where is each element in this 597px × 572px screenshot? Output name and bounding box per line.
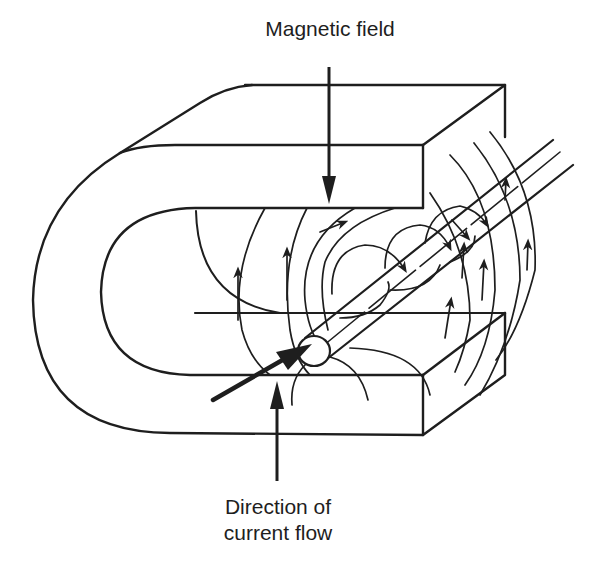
field-line-lower-2: [350, 348, 430, 395]
outer-arc-3-arrow: [482, 262, 484, 300]
magnetic-field-label: Magnetic field: [230, 16, 430, 42]
current-flow-label: Direction of current flow: [178, 494, 378, 546]
magnet-upper-arm-top-front: [120, 145, 423, 153]
current-flow-label-line1: Direction of: [178, 494, 378, 520]
field-line-lower-1: [330, 357, 368, 400]
conductor-loop-2-lower: [390, 265, 440, 290]
outer-arc-1-arrow: [445, 300, 451, 338]
wire-centerline: [318, 152, 560, 350]
lower-arm-end-face: [423, 313, 505, 435]
field-line-1: [239, 208, 270, 375]
magnetic-field-pointer-arrow: [322, 67, 336, 204]
outer-arc-1: [430, 193, 470, 372]
current-direction-arrow: [213, 344, 312, 400]
magnetic-field-lines: [238, 132, 535, 405]
field-line-lower-3: [292, 365, 305, 405]
diagram-canvas: Magnetic field Direction of current flow: [0, 0, 597, 572]
conductor-wire: [298, 140, 573, 366]
current-flow-label-line2: current flow: [178, 520, 378, 546]
current-flow-pointer-arrow: [270, 381, 284, 481]
horseshoe-magnet: [33, 85, 505, 435]
outer-arc-4-arrow-2: [527, 242, 528, 270]
conductor-loop-2: [385, 225, 450, 268]
magnet-top-slant-edge: [120, 85, 252, 153]
wire-upper-edge: [305, 140, 553, 338]
magnet-conductor-illustration: [0, 0, 597, 572]
